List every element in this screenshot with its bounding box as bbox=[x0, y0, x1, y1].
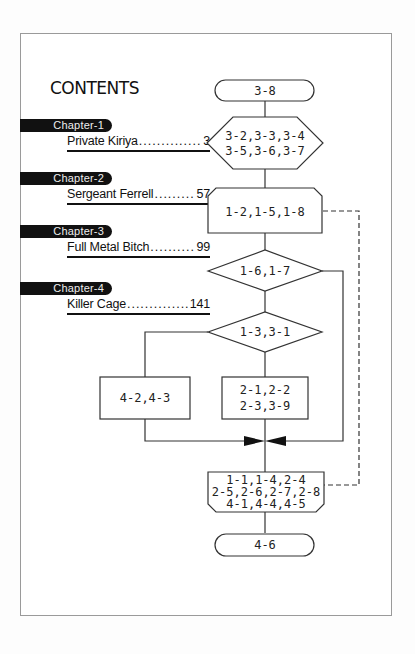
hexagon-line-1: 3-2,3-3,3-4 bbox=[225, 129, 304, 143]
decision-diamond-1: 1-6,1-7 bbox=[208, 250, 322, 291]
decision-diamond-2: 1-3,3-1 bbox=[208, 312, 322, 352]
flowchart: 3-8 3-2,3-3,3-4 3-5,3-6,3-7 1-2,1-5,1-8 … bbox=[0, 0, 415, 654]
preparation-hexagon: 3-2,3-3,3-4 3-5,3-6,3-7 bbox=[207, 117, 323, 169]
start-terminal: 3-8 bbox=[215, 80, 314, 101]
decision-1-label: 1-6,1-7 bbox=[240, 264, 291, 278]
hexagon-line-2: 3-5,3-6,3-7 bbox=[225, 144, 304, 158]
process-center-line-1: 2-1,2-2 bbox=[240, 383, 291, 397]
loop-end-box: 1-1,1-4,2-4 2-5,2-6,2-7,2-8 4-1,4-4,4-5 bbox=[208, 472, 324, 512]
process-box-center: 2-1,2-2 2-3,3-9 bbox=[222, 377, 308, 419]
connector-line bbox=[145, 332, 208, 377]
decision-2-label: 1-3,3-1 bbox=[240, 325, 291, 339]
loop-back-dashed-line bbox=[323, 211, 359, 485]
process-left-label: 4-2,4-3 bbox=[120, 391, 171, 405]
process-center-line-2: 2-3,3-9 bbox=[240, 399, 291, 413]
loop-end-line-3: 4-1,4-4,4-5 bbox=[226, 497, 305, 511]
loop-start-box: 1-2,1-5,1-8 bbox=[208, 188, 322, 233]
connector-line bbox=[145, 417, 256, 441]
loop-start-label: 1-2,1-5,1-8 bbox=[225, 205, 304, 219]
process-box-left: 4-2,4-3 bbox=[100, 377, 190, 419]
end-label: 4-6 bbox=[254, 538, 276, 552]
end-terminal: 4-6 bbox=[215, 534, 314, 556]
start-label: 3-8 bbox=[254, 84, 276, 98]
